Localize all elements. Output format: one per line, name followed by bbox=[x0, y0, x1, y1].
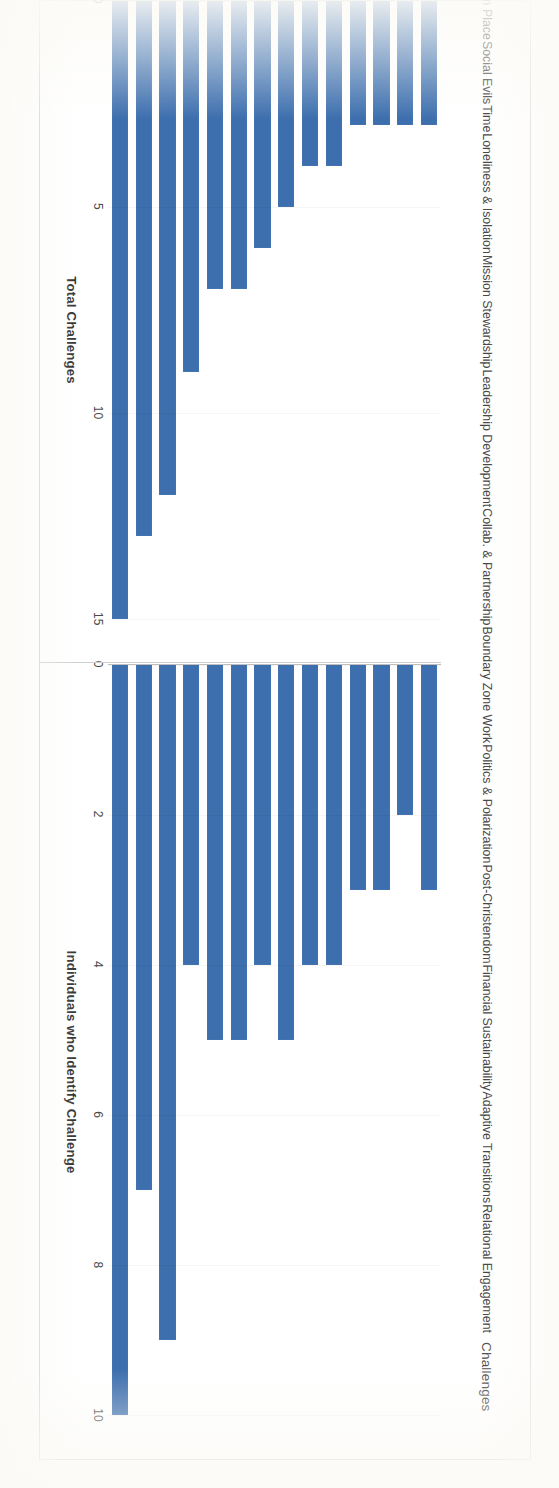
x-axis-tick-label: 4 bbox=[91, 961, 105, 968]
bar-row bbox=[156, 1, 180, 660]
gridline bbox=[108, 619, 441, 620]
gridline bbox=[108, 665, 441, 666]
bar-row bbox=[108, 1, 132, 660]
bar-group-individuals bbox=[108, 665, 441, 1460]
category-label: Collab. & Partnership bbox=[443, 507, 531, 625]
bar bbox=[421, 665, 437, 890]
bar bbox=[159, 1, 175, 495]
bar bbox=[207, 1, 223, 289]
bar-row bbox=[370, 665, 394, 1460]
x-axis-tick-label: 15 bbox=[91, 612, 105, 625]
bar-row bbox=[156, 665, 180, 1460]
x-axis-tick-label: 8 bbox=[91, 1261, 105, 1268]
category-label: Mission Stewardship bbox=[443, 254, 531, 369]
bar-row bbox=[393, 1, 417, 660]
bar-row bbox=[203, 665, 227, 1460]
panel-divider bbox=[39, 662, 441, 663]
category-label: Adaptive Transitions bbox=[443, 1091, 531, 1204]
bar-row bbox=[322, 665, 346, 1460]
category-label: Leadership Development bbox=[443, 369, 531, 508]
bar-row bbox=[132, 665, 156, 1460]
bar bbox=[278, 665, 294, 1040]
x-axis-title-individuals: Individuals who Identify Challenge bbox=[64, 664, 79, 1460]
bar bbox=[136, 1, 152, 536]
category-label-list: Relational EngagementAdaptive Transition… bbox=[443, 0, 531, 1333]
bar bbox=[350, 1, 366, 125]
x-axis-tick-label: 5 bbox=[91, 203, 105, 210]
gridline bbox=[108, 413, 441, 414]
bar-row bbox=[298, 665, 322, 1460]
bar-row bbox=[417, 1, 441, 660]
bar bbox=[421, 1, 437, 125]
bar bbox=[350, 665, 366, 890]
gridline bbox=[108, 1415, 441, 1416]
bar bbox=[207, 665, 223, 1040]
bar bbox=[373, 1, 389, 125]
chart-panel-total-challenges: 051015 Total Challenges bbox=[39, 0, 441, 660]
bar bbox=[112, 665, 128, 1415]
bar bbox=[231, 665, 247, 1040]
category-label: Relational Engagement bbox=[443, 1203, 531, 1333]
bar-row bbox=[274, 665, 298, 1460]
x-axis-tick-label: 0 bbox=[91, 0, 105, 3]
bar-row bbox=[322, 1, 346, 660]
bar-group-total-challenges bbox=[108, 1, 441, 660]
rotated-page-wrapper: Relational EngagementAdaptive Transition… bbox=[0, 0, 559, 1488]
x-axis-tick-label: 2 bbox=[91, 811, 105, 818]
bar bbox=[255, 1, 271, 248]
bar-row bbox=[227, 1, 251, 660]
bar-chart-figure: Relational EngagementAdaptive Transition… bbox=[0, 0, 559, 1488]
bar-row bbox=[370, 1, 394, 660]
bar-row bbox=[179, 1, 203, 660]
category-axis-title: Challenges bbox=[443, 1338, 531, 1458]
plot-area-individuals bbox=[108, 664, 441, 1460]
bar-row bbox=[132, 1, 156, 660]
plot-area-total-challenges bbox=[108, 0, 441, 660]
bar-row bbox=[417, 665, 441, 1460]
category-label: Time bbox=[443, 104, 531, 132]
bar-row bbox=[346, 1, 370, 660]
bar-row bbox=[346, 665, 370, 1460]
gridline bbox=[108, 1265, 441, 1266]
bar-row bbox=[227, 665, 251, 1460]
category-label: Financial Sustainability bbox=[443, 964, 531, 1091]
bar bbox=[397, 1, 413, 125]
x-axis-title-total-challenges: Total Challenges bbox=[64, 0, 79, 660]
category-label: Social Evils bbox=[443, 40, 531, 104]
chart-panel-individuals: 0246810 Individuals who Identify Challen… bbox=[39, 664, 441, 1460]
x-axis-tick-label: 10 bbox=[91, 1408, 105, 1421]
x-axis-tick-label: 10 bbox=[91, 406, 105, 419]
bar-row bbox=[203, 1, 227, 660]
category-label: Boundary Zone Work bbox=[443, 625, 531, 743]
x-axis-ticks-total-challenges: 051015 bbox=[83, 0, 105, 660]
bar-row bbox=[251, 1, 275, 660]
bar bbox=[278, 1, 294, 207]
gridline bbox=[108, 815, 441, 816]
category-label: Loneliness & Isolation bbox=[443, 132, 531, 254]
x-axis-tick-label: 6 bbox=[91, 1111, 105, 1118]
bar bbox=[302, 1, 318, 166]
bar bbox=[136, 665, 152, 1190]
bar bbox=[231, 1, 247, 289]
category-label: Politics & Polarization bbox=[443, 743, 531, 863]
bar-row bbox=[393, 665, 417, 1460]
gridline bbox=[108, 1115, 441, 1116]
bar-row bbox=[298, 1, 322, 660]
category-label: Post-Christendom bbox=[443, 863, 531, 963]
category-label: Removal from Place bbox=[443, 0, 531, 40]
bar-row bbox=[179, 665, 203, 1460]
gridline bbox=[108, 965, 441, 966]
bar bbox=[326, 1, 342, 166]
gridline bbox=[108, 207, 441, 208]
bar-row bbox=[274, 1, 298, 660]
bar bbox=[397, 665, 413, 815]
bar-row bbox=[251, 665, 275, 1460]
x-axis-ticks-individuals: 0246810 bbox=[83, 664, 105, 1460]
bar bbox=[112, 1, 128, 619]
bar-row bbox=[108, 665, 132, 1460]
bar bbox=[183, 1, 199, 372]
gridline bbox=[108, 1, 441, 2]
category-label-column: Relational EngagementAdaptive Transition… bbox=[441, 0, 531, 1460]
bar bbox=[373, 665, 389, 890]
bar bbox=[159, 665, 175, 1340]
